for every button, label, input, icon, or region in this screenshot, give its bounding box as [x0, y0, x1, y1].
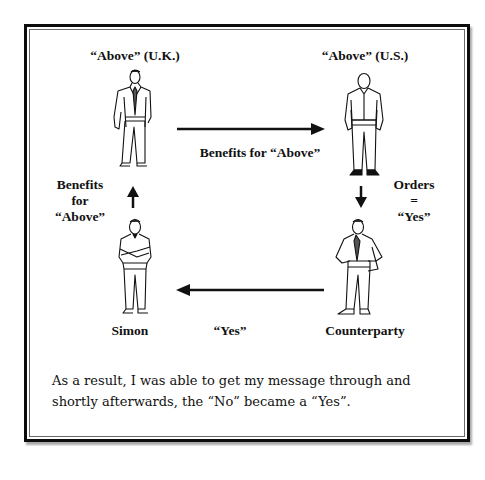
node-label-above-us: “Above” (U.S.): [310, 48, 420, 64]
arrow-left-icon: [174, 283, 326, 297]
edge-label-line: “Above”: [44, 209, 116, 225]
edge-label-benefits-for-above-vertical: Benefits for “Above”: [44, 177, 116, 225]
node-label-counterparty: Counterparty: [310, 323, 420, 339]
man-in-jacket-hands-on-hips-icon: [324, 217, 396, 317]
edge-label-line: Benefits: [44, 177, 116, 193]
node-label-simon: Simon: [95, 323, 165, 339]
edge-label-line: for: [44, 193, 116, 209]
arrow-down-icon: [354, 185, 368, 209]
arrow-up-icon: [126, 185, 140, 209]
edge-label-benefits-for-above: Benefits for “Above”: [180, 145, 340, 161]
edge-label-line: =: [386, 193, 442, 209]
arrow-right-icon: [175, 122, 327, 136]
man-in-shirt-hands-in-pockets-icon: [336, 70, 392, 180]
edge-label-line: Orders: [386, 177, 442, 193]
caption-text: As a result, I was able to get my messag…: [52, 370, 432, 412]
man-arms-crossed-icon: [107, 217, 163, 317]
node-label-above-uk: “Above” (U.K.): [85, 48, 185, 64]
edge-label-yes: “Yes”: [200, 323, 260, 339]
businessman-in-suit-with-tie-icon: [104, 67, 160, 167]
